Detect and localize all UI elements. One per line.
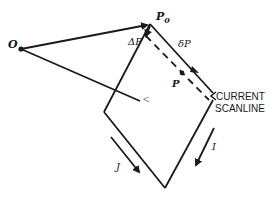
- label-delta-p-big: ΔP: [127, 36, 142, 47]
- label-p0: P0: [155, 10, 170, 25]
- label-scanline: SCANLINE: [215, 103, 265, 114]
- label-origin: O: [8, 38, 18, 51]
- label-current: CURRENT: [216, 91, 265, 102]
- point-p: [180, 71, 185, 76]
- label-i: I: [211, 141, 217, 152]
- small-delta-p-arrowhead: [190, 66, 199, 73]
- label-delta-p-small: δP: [178, 38, 191, 49]
- diagram-canvas: O P0 ΔP δP P CURRENT SCANLINE I J <: [0, 0, 276, 198]
- ray-o-to-polygon: [21, 49, 140, 101]
- origin-point: [18, 46, 23, 51]
- edge-left-bottom: [104, 112, 165, 188]
- edge-p0-right: [150, 24, 213, 93]
- label-j: J: [114, 161, 121, 172]
- label-corner-mark: <: [143, 93, 149, 105]
- label-p: P: [171, 78, 180, 89]
